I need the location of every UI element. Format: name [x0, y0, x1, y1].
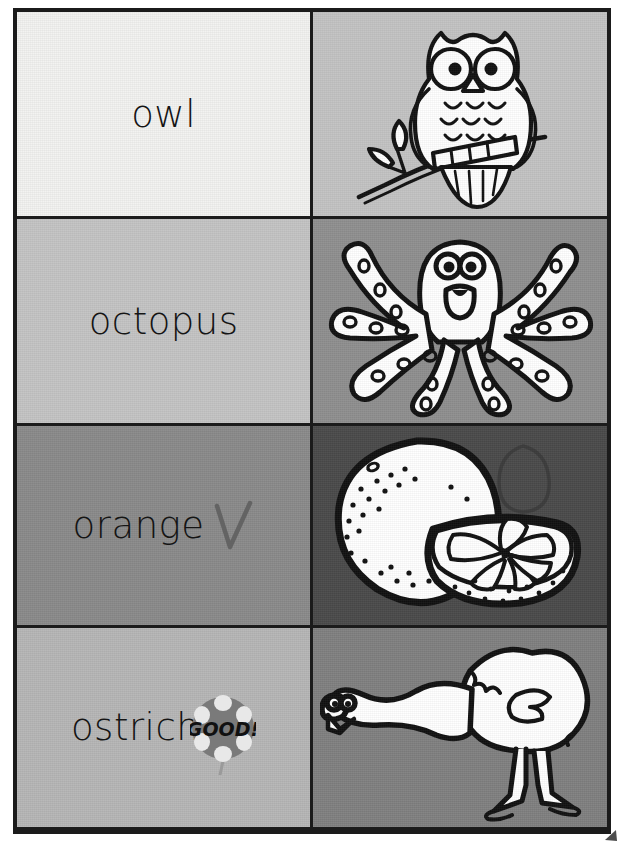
- word-label: owl: [131, 93, 196, 136]
- worksheet-row-owl: owl: [17, 12, 607, 219]
- word-label: octopus: [89, 300, 239, 343]
- page-corner-mark-icon: [604, 829, 618, 842]
- word-label-wrap-octopus: octopus: [89, 300, 239, 343]
- worksheet-row-octopus: octopus: [17, 219, 607, 426]
- word-cell-octopus[interactable]: octopus: [17, 219, 313, 423]
- octopus-icon: [320, 224, 600, 419]
- word-label-wrap-owl: owl: [131, 93, 196, 136]
- picture-cell-octopus[interactable]: [313, 219, 607, 423]
- word-label-wrap-ostrich: ostrich GOOD!: [71, 695, 256, 761]
- sticker-label: GOOD!: [190, 718, 256, 740]
- worksheet-row-orange: orange: [17, 426, 607, 628]
- orange-icon: [325, 431, 595, 621]
- worksheet-row-ostrich: ostrich GOOD!: [17, 628, 607, 830]
- owl-icon: [345, 17, 575, 212]
- picture-cell-ostrich[interactable]: [313, 628, 607, 827]
- picture-cell-orange[interactable]: [313, 426, 607, 625]
- word-cell-ostrich[interactable]: ostrich GOOD!: [17, 628, 313, 827]
- word-cell-owl[interactable]: owl: [17, 12, 313, 216]
- ostrich-icon: [320, 633, 600, 823]
- worksheet-frame: owl: [13, 8, 611, 834]
- word-label-wrap-orange: orange: [73, 498, 255, 554]
- word-cell-orange[interactable]: orange: [17, 426, 313, 625]
- handwritten-check-icon: [209, 500, 255, 556]
- good-sticker[interactable]: GOOD!: [190, 695, 256, 761]
- word-label: ostrich: [71, 706, 200, 749]
- word-label: orange: [73, 504, 205, 547]
- picture-cell-owl[interactable]: [313, 12, 607, 216]
